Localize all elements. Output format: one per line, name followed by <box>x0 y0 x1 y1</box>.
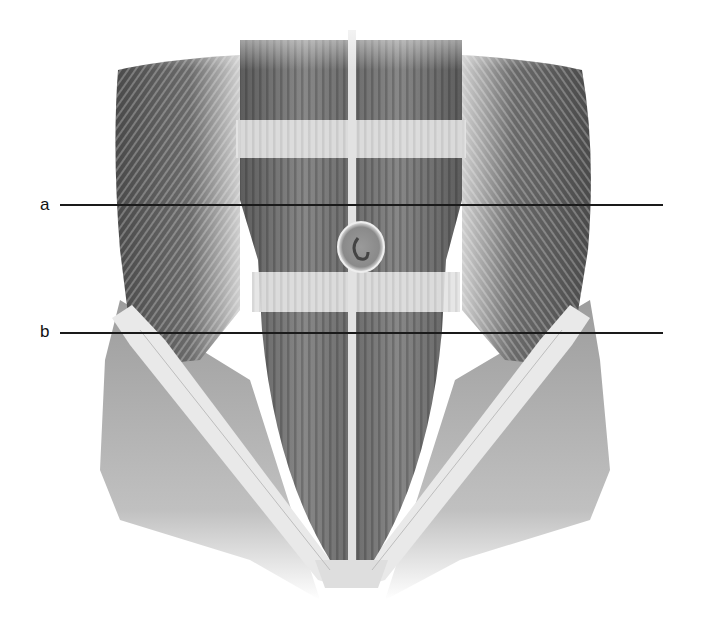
linea-alba <box>348 30 356 560</box>
label-b: b <box>40 323 49 340</box>
leader-line-b <box>60 332 663 334</box>
abdomen-diagram: a b <box>0 0 701 643</box>
abdomen-illustration <box>0 0 701 643</box>
leader-line-a <box>60 204 663 206</box>
label-a: a <box>40 196 49 213</box>
umbilicus <box>338 222 384 272</box>
